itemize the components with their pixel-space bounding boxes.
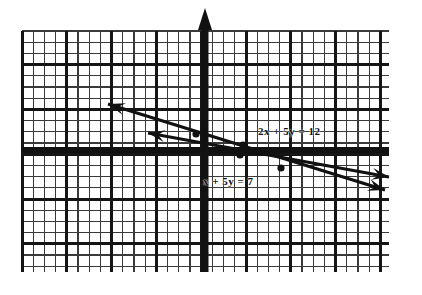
equation-label-x-plus-5y-equals-7: x + 5y = 7 bbox=[203, 176, 254, 187]
graph-canvas bbox=[0, 0, 422, 295]
marked-point-3 bbox=[236, 151, 243, 158]
marked-point-4 bbox=[277, 164, 284, 171]
marked-point-2 bbox=[239, 141, 246, 148]
equation-label-2x-plus-5y-equals-12: 2x + 5y = 12 bbox=[258, 126, 321, 137]
marked-point-1 bbox=[192, 130, 199, 137]
graph-figure: 2x + 5y = 12 x + 5y = 7 bbox=[0, 0, 422, 295]
